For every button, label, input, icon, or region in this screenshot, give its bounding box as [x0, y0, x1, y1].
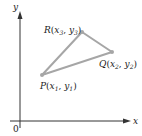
origin-label: 0 [13, 124, 19, 134]
x-axis-arrow-icon [123, 119, 131, 124]
label-p: P(x1, y1) [39, 81, 77, 92]
vertex-p [40, 73, 44, 77]
vertex-q [110, 50, 114, 54]
triangle [40, 30, 114, 77]
triangle-diagram: y x 0 R(x3, y3) Q(x2, y2) P(x1, y1) [0, 0, 142, 136]
y-axis-label: y [12, 2, 19, 12]
x-axis-label: x [133, 116, 138, 126]
y-axis-arrow-icon [18, 11, 23, 19]
label-r: R(x3, y3) [43, 25, 81, 36]
label-q: Q(x2, y2) [99, 59, 137, 70]
